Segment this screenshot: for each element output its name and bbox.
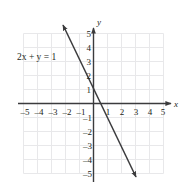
y-tick-label: –5 <box>82 169 93 179</box>
x-tick-label: 1 <box>106 107 111 117</box>
y-tick-label: –3 <box>82 141 93 151</box>
x-tick-label: 4 <box>148 107 153 117</box>
x-tick-label: 2 <box>120 107 125 117</box>
y-tick-label: 3 <box>87 57 92 67</box>
equation-label: 2x + y = 1 <box>17 52 56 62</box>
y-tick-label: –4 <box>82 155 93 165</box>
x-tick-label: –5 <box>20 107 31 117</box>
y-tick-label: 4 <box>87 43 92 53</box>
graph-canvas: –5 –4 –3 –2 –1 1 2 3 4 5 5 4 3 2 1 –1 –2… <box>0 0 182 192</box>
y-axis-label: y <box>96 17 101 27</box>
x-tick-label: –4 <box>34 107 45 117</box>
coordinate-plane-graph: –5 –4 –3 –2 –1 1 2 3 4 5 5 4 3 2 1 –1 –2… <box>0 0 182 192</box>
x-axis-label: x <box>173 99 178 109</box>
y-tick-label: 2 <box>87 71 92 81</box>
y-tick-label: 1 <box>87 85 92 95</box>
y-tick-label: –2 <box>82 127 92 137</box>
x-tick-label: –3 <box>48 107 59 117</box>
x-tick-label: 3 <box>134 107 139 117</box>
y-tick-label: 5 <box>87 29 92 39</box>
x-tick-label: 5 <box>161 107 166 117</box>
y-tick-label: –1 <box>82 113 92 123</box>
x-tick-labels: –5 –4 –3 –2 –1 1 2 3 4 5 <box>20 107 166 117</box>
x-tick-label: –2 <box>62 107 72 117</box>
